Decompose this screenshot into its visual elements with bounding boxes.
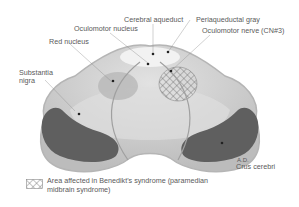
- label-substantia-nigra-2: nigra: [19, 77, 35, 85]
- hatch-swatch-icon: [26, 179, 43, 189]
- label-oculomotor-nerve: Oculomotor nerve (CN#3): [202, 27, 284, 35]
- periaqueductal-gray: [120, 47, 180, 67]
- label-red-nucleus: Red nucleus: [49, 38, 89, 46]
- label-crus-cerebri: Crus cerebri: [236, 163, 275, 171]
- label-oculomotor-nucleus: Oculomotor nucleus: [74, 25, 138, 33]
- label-periaqueductal-gray: Periaqueductal gray: [196, 16, 260, 24]
- legend-text: Area affected in Benedikt's syndrome (pa…: [47, 177, 237, 194]
- benedikt-affected-area: [159, 67, 197, 101]
- label-cerebral-aqueduct: Cerebral aqueduct: [124, 16, 183, 24]
- legend: Area affected in Benedikt's syndrome (pa…: [26, 177, 237, 194]
